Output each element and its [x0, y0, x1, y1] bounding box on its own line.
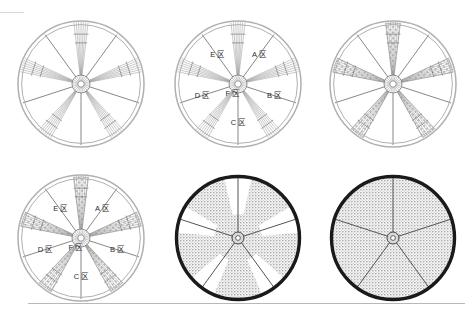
- zone-label: B 区: [110, 245, 125, 254]
- zone-label: C 区: [231, 118, 247, 127]
- hub-bore: [390, 81, 396, 87]
- wheel-partial-stipple-disc: [177, 177, 300, 300]
- zone-label: E 区: [210, 50, 225, 59]
- hub-bore: [78, 81, 84, 87]
- figure-root: A 区B 区C 区D 区E 区F 区A 区B 区C 区D 区E 区F 区: [0, 0, 475, 316]
- spoke-band-line: [180, 63, 235, 83]
- bottom-rule: [28, 303, 465, 304]
- spoke-band-line: [233, 22, 237, 80]
- spoke-band-line: [76, 22, 80, 80]
- wheels-canvas: A 区B 区C 区D 区E 区F 区A 区B 区C 区D 区E 区F 区: [0, 0, 475, 316]
- spoke-band-line: [23, 63, 78, 83]
- hub-bore: [78, 235, 84, 241]
- spoke-band-line: [83, 87, 115, 136]
- spoke-band-line: [48, 87, 79, 137]
- spoke-band-line: [181, 60, 235, 82]
- zone-label: D 区: [38, 245, 54, 254]
- spoke-band-line: [241, 69, 298, 83]
- spoke-band-line: [395, 87, 427, 136]
- spoke-band-line: [41, 87, 79, 131]
- zone-label: B 区: [267, 91, 282, 100]
- spoke-band-line: [46, 87, 78, 136]
- zone-label: D 区: [195, 91, 211, 100]
- zone-label: E 区: [53, 204, 68, 213]
- zone-label: F 区: [68, 243, 83, 252]
- spoke-band-line: [83, 87, 119, 133]
- spoke-band-line: [395, 87, 426, 137]
- spoke-band-line: [43, 87, 79, 133]
- wheel-plain-spokes: [18, 21, 144, 147]
- wheel-labeled-zones: A 区B 区C 区D 区E 区F 区: [175, 21, 301, 147]
- spoke-band-line: [178, 69, 235, 83]
- wheel-hatched-bands: [330, 21, 456, 147]
- spoke-band-line: [84, 60, 138, 82]
- spoke-band-line: [84, 69, 141, 83]
- spoke-band-line: [24, 60, 78, 82]
- spoke-band-line: [21, 69, 78, 83]
- spoke-band-line: [353, 87, 391, 131]
- spoke-band-line: [83, 87, 114, 137]
- hub-bore: [235, 81, 241, 87]
- spoke-band-line: [81, 22, 85, 80]
- hub-bore: [391, 236, 396, 241]
- spoke-band-line: [238, 22, 242, 80]
- zone-label: C 区: [74, 272, 90, 281]
- zone-label: A 区: [95, 204, 110, 213]
- wheels-group: A 区B 区C 区D 区E 区F 区A 区B 区C 区D 区E 区F 区: [18, 21, 456, 301]
- hub-bore: [236, 236, 241, 241]
- spoke-band-line: [241, 63, 296, 83]
- spoke-band-line: [355, 87, 391, 133]
- spoke-band-line: [84, 63, 139, 83]
- spoke-band-line: [360, 87, 391, 137]
- spoke-band-line: [241, 60, 295, 82]
- spoke-band-line: [395, 87, 433, 131]
- spoke-band-line: [83, 87, 121, 131]
- spoke-band-line: [358, 87, 390, 136]
- spoke-band-line: [395, 87, 431, 133]
- wheel-full-stipple-disc: [332, 177, 455, 300]
- zone-label: F 区: [225, 89, 240, 98]
- zone-label: A 区: [252, 50, 267, 59]
- wheel-hatched-bands-labeled: A 区B 区C 区D 区E 区F 区: [18, 175, 144, 301]
